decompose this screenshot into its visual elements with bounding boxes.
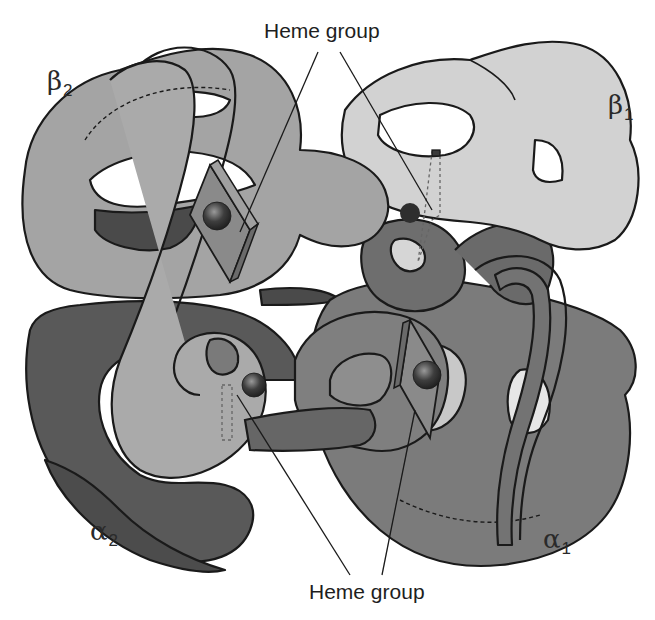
subunit-symbol: β xyxy=(47,66,62,96)
heme-group-label-top: Heme group xyxy=(264,20,380,41)
subunit-symbol: α xyxy=(543,524,561,554)
subunit-label-beta1: β1 xyxy=(608,92,634,123)
subunit-index: 2 xyxy=(109,531,118,550)
subunit-symbol: β xyxy=(608,90,623,120)
subunit-label-alpha2: α2 xyxy=(90,518,118,549)
subunit-index: 2 xyxy=(63,81,72,100)
subunit-label-alpha1: α1 xyxy=(543,526,571,557)
iron-atom-icon xyxy=(203,202,231,230)
iron-atom-icon xyxy=(413,361,441,389)
subunit-alpha2-front-helix xyxy=(245,408,375,451)
subunit-index: 1 xyxy=(562,539,571,558)
hemoglobin-diagram: Heme group Heme group β2 β1 α2 α1 xyxy=(0,0,655,620)
subunit-index: 1 xyxy=(624,105,633,124)
subunit-symbol: α xyxy=(90,516,108,546)
subunit-label-beta2: β2 xyxy=(47,68,73,99)
heme-group-label-bottom: Heme group xyxy=(309,581,425,602)
